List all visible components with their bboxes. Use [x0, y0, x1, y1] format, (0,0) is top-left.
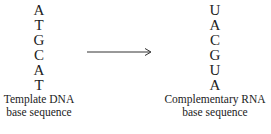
template-label-line1: Template DNA [0, 93, 94, 106]
rna-base-1: U [160, 3, 270, 18]
rna-label-line1: Complementary RNA [160, 93, 270, 106]
right-arrow-icon [87, 46, 153, 58]
template-base-4: C [0, 48, 94, 63]
rna-label-line2: base sequence [160, 106, 270, 119]
template-label-line2: base sequence [0, 106, 94, 119]
template-base-2: T [0, 18, 94, 33]
rna-base-3: C [160, 33, 270, 48]
template-base-5: A [0, 63, 94, 78]
template-dna-column: A T G C A T Template DNA base sequence [0, 3, 94, 119]
rna-base-2: A [160, 18, 270, 33]
template-base-1: A [0, 3, 94, 18]
complementary-rna-column: U A C G U A Complementary RNA base seque… [160, 3, 270, 119]
rna-base-5: U [160, 63, 270, 78]
rna-base-4: G [160, 48, 270, 63]
template-base-6: T [0, 78, 94, 93]
template-base-3: G [0, 33, 94, 48]
rna-base-6: A [160, 78, 270, 93]
